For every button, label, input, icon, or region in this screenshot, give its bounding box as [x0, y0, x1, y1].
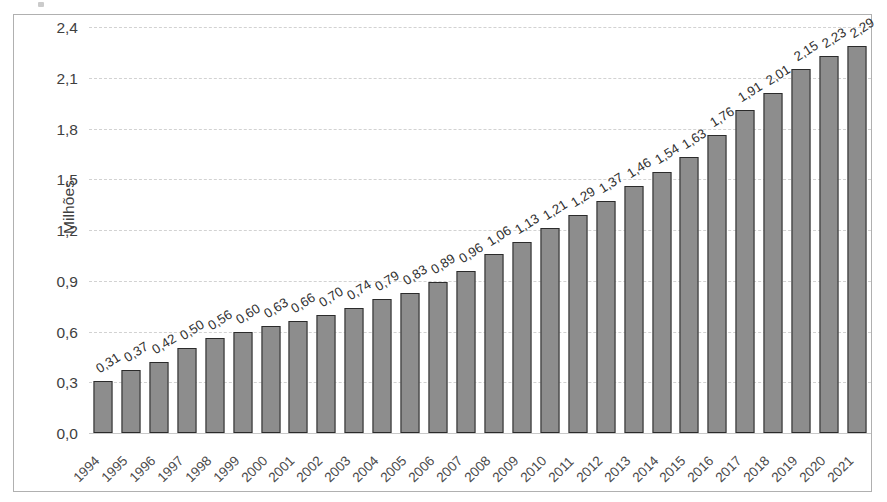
bar[interactable] [596, 201, 615, 433]
y-axis-tick-label: 2,1 [56, 70, 78, 88]
bar-group: 1,762016 [703, 27, 731, 433]
bar-group: 1,292011 [564, 27, 592, 433]
bar-group: 0,311994 [89, 27, 117, 433]
bar-group: 0,792004 [368, 27, 396, 433]
x-axis-tick-label: 2006 [406, 453, 438, 485]
x-axis-tick-label: 2014 [629, 453, 661, 485]
bar[interactable] [568, 215, 587, 433]
x-axis-tick-label: 2008 [461, 453, 493, 485]
bar[interactable] [429, 282, 448, 433]
x-axis-tick-label: 2021 [824, 453, 856, 485]
bar[interactable] [457, 271, 476, 433]
bar[interactable] [736, 110, 755, 433]
x-axis-tick-label: 2013 [601, 453, 633, 485]
y-axis-tick-label: 1,8 [56, 121, 78, 139]
bar-group: 2,152019 [787, 27, 815, 433]
x-axis-tick-label: 2012 [573, 453, 605, 485]
y-axis-tick-label: 1,2 [56, 222, 78, 240]
bar[interactable] [121, 370, 140, 433]
x-axis-tick-label: 2004 [350, 453, 382, 485]
bar-group: 1,132009 [508, 27, 536, 433]
y-axis-title: Milhões [60, 147, 78, 267]
x-axis-tick-label: 2003 [322, 453, 354, 485]
x-axis-tick-label: 2001 [266, 453, 298, 485]
bar[interactable] [373, 299, 392, 433]
bar-group: 1,542014 [648, 27, 676, 433]
bar[interactable] [540, 228, 559, 433]
x-axis-tick-label: 2002 [294, 453, 326, 485]
bar-group: 0,892006 [424, 27, 452, 433]
plot-area: 0,00,30,60,91,21,51,82,12,4 0,3119940,37… [89, 27, 871, 433]
bar[interactable] [652, 172, 671, 433]
y-axis-tick-label: 0,9 [56, 273, 78, 291]
x-axis-tick-label: 2009 [489, 453, 521, 485]
bar-group: 1,372012 [592, 27, 620, 433]
bar[interactable] [792, 69, 811, 433]
bar[interactable] [484, 254, 503, 433]
y-axis-tick-label: 0,6 [56, 324, 78, 342]
x-axis-tick-label: 1996 [126, 453, 158, 485]
bar[interactable] [205, 338, 224, 433]
bar[interactable] [93, 381, 112, 433]
bar-group: 2,292021 [843, 27, 871, 433]
bar-group: 0,421996 [145, 27, 173, 433]
bar[interactable] [289, 321, 308, 433]
x-axis-tick-label: 2005 [378, 453, 410, 485]
x-axis-tick-label: 2010 [517, 453, 549, 485]
bar[interactable] [848, 46, 867, 433]
x-axis-tick-label: 1995 [98, 453, 130, 485]
bar[interactable] [401, 293, 420, 433]
bar-group: 1,912017 [731, 27, 759, 433]
bar-group: 2,232020 [815, 27, 843, 433]
bar[interactable] [708, 135, 727, 433]
bar-group: 0,501997 [173, 27, 201, 433]
chart-frame: Milhões 0,00,30,60,91,21,51,82,12,4 0,31… [13, 14, 872, 492]
bar-group: 2,012018 [759, 27, 787, 433]
bar-group: 0,662001 [285, 27, 313, 433]
bar[interactable] [512, 242, 531, 433]
bar[interactable] [764, 93, 783, 433]
x-axis-tick-label: 2019 [769, 453, 801, 485]
bar-group: 1,062008 [480, 27, 508, 433]
y-axis-tick-label: 1,5 [56, 171, 78, 189]
bar[interactable] [177, 348, 196, 433]
bar[interactable] [624, 186, 643, 433]
page-cut-off-artifact [38, 2, 44, 7]
bar-group: 0,561998 [201, 27, 229, 433]
bar[interactable] [680, 157, 699, 433]
x-axis-tick-label: 1994 [70, 453, 102, 485]
x-axis-tick-label: 1997 [154, 453, 186, 485]
bar-group: 0,371995 [117, 27, 145, 433]
x-axis-tick-label: 2020 [797, 453, 829, 485]
bar-group: 1,632015 [676, 27, 704, 433]
bar-group: 0,601999 [229, 27, 257, 433]
bar-group: 0,632000 [257, 27, 285, 433]
bar-group: 0,832005 [396, 27, 424, 433]
bar-group: 0,702002 [312, 27, 340, 433]
y-axis-tick-label: 0,0 [56, 425, 78, 443]
y-axis-tick-label: 0,3 [56, 374, 78, 392]
x-axis-tick-label: 2011 [545, 454, 576, 485]
bar[interactable] [317, 315, 336, 433]
x-axis-tick-label: 1999 [210, 453, 242, 485]
x-axis-tick-label: 2016 [685, 453, 717, 485]
x-axis-tick-label: 1998 [182, 453, 214, 485]
bar[interactable] [233, 332, 252, 434]
x-axis-tick-label: 2018 [741, 453, 773, 485]
bar[interactable] [345, 308, 364, 433]
x-axis-tick-label: 2015 [657, 453, 689, 485]
bar-group: 1,212010 [536, 27, 564, 433]
bar-group: 0,742003 [340, 27, 368, 433]
bar-group: 0,962007 [452, 27, 480, 433]
bar-series: 0,3119940,3719950,4219960,5019970,561998… [89, 27, 871, 433]
x-axis-tick-label: 2000 [238, 453, 270, 485]
bar-value-label: 2,29 [847, 14, 877, 40]
x-axis-tick-label: 2017 [713, 453, 745, 485]
x-axis-tick-label: 2007 [433, 453, 465, 485]
axis-baseline: 0,0 [89, 433, 871, 434]
bar-group: 1,462013 [620, 27, 648, 433]
y-axis-tick-label: 2,4 [56, 19, 78, 37]
bar[interactable] [820, 56, 839, 433]
bar[interactable] [149, 362, 168, 433]
bar[interactable] [261, 326, 280, 433]
